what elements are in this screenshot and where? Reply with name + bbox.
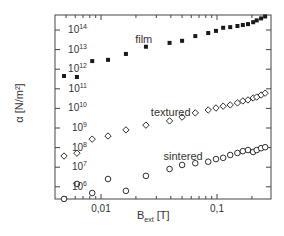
x-axis-label-unit: [T] bbox=[154, 209, 170, 221]
marker-diamond bbox=[227, 102, 233, 108]
y-tick-label: 108 bbox=[72, 141, 87, 153]
marker-diamond bbox=[61, 153, 67, 159]
marker-square bbox=[241, 23, 245, 27]
marker-circle bbox=[61, 196, 67, 202]
marker-square bbox=[62, 74, 66, 78]
x-axis-label: Bext [T] bbox=[137, 209, 170, 223]
marker-square bbox=[168, 41, 172, 45]
marker-circle bbox=[179, 162, 185, 168]
marker-diamond bbox=[205, 107, 211, 113]
marker-circle bbox=[213, 156, 219, 162]
marker-square bbox=[193, 34, 197, 38]
y-tick-label: 1014 bbox=[68, 23, 87, 35]
marker-circle bbox=[220, 155, 226, 161]
marker-square bbox=[144, 45, 148, 49]
marker-diamond bbox=[123, 127, 129, 133]
annotation-textured: textured bbox=[151, 106, 191, 118]
marker-square bbox=[263, 14, 267, 18]
marker-square bbox=[90, 59, 94, 63]
marker-diamond bbox=[220, 103, 226, 109]
marker-square bbox=[180, 39, 184, 43]
marker-square bbox=[259, 16, 263, 20]
series-textured bbox=[61, 90, 269, 159]
marker-diamond bbox=[105, 133, 111, 139]
y-tick-label: 1011 bbox=[69, 82, 87, 94]
marker-circle bbox=[235, 150, 241, 156]
marker-circle bbox=[123, 188, 129, 194]
marker-square bbox=[228, 25, 232, 29]
y-tick-label: 109 bbox=[72, 121, 87, 133]
x-tick-label: 0,01 bbox=[89, 203, 113, 214]
marker-diamond bbox=[166, 118, 172, 124]
y-tick-label: 106 bbox=[72, 180, 87, 192]
x-tick-label: 0,1 bbox=[205, 203, 229, 214]
marker-circle bbox=[227, 152, 233, 158]
y-tick-label: 107 bbox=[72, 160, 87, 172]
marker-diamond bbox=[89, 136, 95, 142]
marker-circle bbox=[89, 190, 95, 196]
y-tick-label: 1010 bbox=[68, 101, 87, 113]
marker-square bbox=[124, 52, 128, 56]
annotation-sintered: sintered bbox=[164, 150, 203, 162]
marker-square bbox=[235, 24, 239, 28]
x-axis-label-sub: ext bbox=[144, 216, 153, 223]
marker-circle bbox=[240, 148, 246, 154]
marker-square bbox=[75, 75, 79, 79]
marker-square bbox=[255, 18, 259, 22]
marker-circle bbox=[143, 173, 149, 179]
series-film bbox=[62, 14, 267, 79]
marker-circle bbox=[105, 176, 111, 182]
marker-square bbox=[221, 26, 225, 30]
y-tick-label: 1012 bbox=[68, 62, 87, 74]
marker-diamond bbox=[143, 122, 149, 128]
marker-circle bbox=[205, 159, 211, 165]
marker-diamond bbox=[213, 105, 219, 111]
marker-square bbox=[214, 29, 218, 33]
y-axis-label-text: α [N/m²] bbox=[13, 83, 25, 122]
marker-square bbox=[246, 22, 250, 26]
y-axis-label: α [N/m²] bbox=[13, 78, 25, 128]
marker-square bbox=[106, 58, 110, 62]
marker-diamond bbox=[192, 110, 198, 116]
y-tick-label: 1013 bbox=[68, 43, 87, 55]
marker-circle bbox=[167, 166, 173, 172]
marker-circle bbox=[262, 144, 268, 150]
marker-square bbox=[206, 31, 210, 35]
annotation-film: film bbox=[135, 33, 152, 45]
marker-square bbox=[251, 20, 255, 24]
